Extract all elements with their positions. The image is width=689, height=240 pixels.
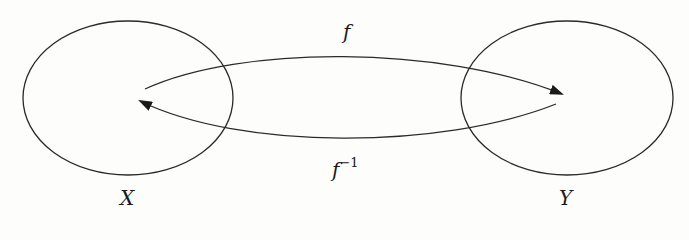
label-set-x: X (120, 188, 134, 208)
arrow-f (145, 57, 562, 94)
label-set-x-text: X (120, 186, 134, 210)
label-set-y-text: Y (559, 186, 572, 210)
set-y-ellipse (461, 21, 673, 175)
arrow-f-inverse (140, 101, 556, 138)
label-f-inverse: f−1 (332, 158, 359, 180)
label-f-text: f (343, 20, 350, 44)
label-set-y: Y (559, 188, 572, 208)
label-f-inverse-superscript: −1 (339, 155, 358, 170)
set-x-ellipse (23, 21, 233, 175)
label-f: f (343, 22, 350, 42)
